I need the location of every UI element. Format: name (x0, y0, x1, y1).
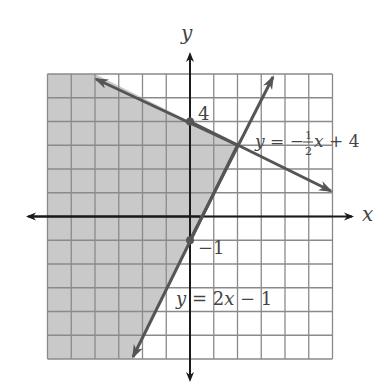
graph: y x 4 −1 y = − 1 2 x + 4 y = 2x − 1 (0, 0, 392, 390)
svg-text:x + 4: x + 4 (314, 131, 359, 151)
equation-label-2: y = 2x − 1 (175, 288, 272, 309)
y-intercept-label-neg1: −1 (198, 237, 225, 258)
y-axis-label: y (180, 21, 193, 45)
svg-text:2: 2 (305, 145, 312, 158)
svg-text:y = −: y = − (254, 131, 304, 151)
point-y-intercept-neg1 (186, 236, 194, 244)
svg-text:1: 1 (305, 129, 312, 142)
x-axis-label: x (362, 202, 373, 226)
equation-label-1: y = − 1 2 x + 4 (254, 129, 359, 158)
point-y-intercept-4 (186, 118, 194, 126)
y-intercept-label-4: 4 (198, 103, 209, 124)
